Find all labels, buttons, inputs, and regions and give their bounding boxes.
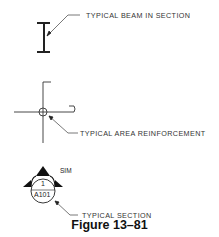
section-arrow-right-icon: [55, 180, 63, 187]
i-beam-section-icon: [37, 23, 50, 52]
section-arrow-left-icon: [23, 180, 31, 187]
beam-label: TYPICAL BEAM IN SECTION: [86, 11, 190, 20]
area-leader-line: [49, 116, 78, 133]
section-number: 1: [41, 180, 45, 187]
section-note-sim: SIM: [60, 167, 72, 174]
section-sheet: A101: [34, 191, 50, 198]
area-reinforcement-icon: [14, 82, 75, 143]
section-leader-line: [55, 201, 78, 215]
figure-caption: Figure 13–81: [0, 218, 219, 232]
drawing-canvas: [0, 0, 219, 237]
section-arrow-top-icon: [36, 166, 50, 176]
beam-leader-line: [47, 15, 80, 36]
area-reinforcement-label: TYPICAL AREA REINFORCEMENT: [80, 129, 206, 138]
